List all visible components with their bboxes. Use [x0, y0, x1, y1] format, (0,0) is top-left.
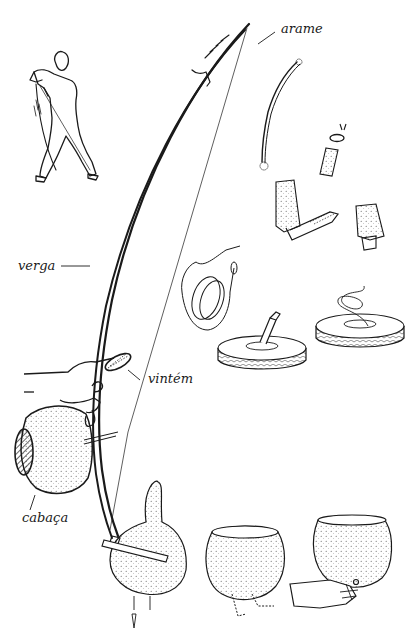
tire-with-knife	[218, 312, 306, 369]
wire-coil	[182, 246, 240, 330]
bow-end-cap-fitting	[276, 180, 384, 250]
verga-bow	[93, 24, 249, 544]
arame-wire	[110, 28, 247, 530]
label-arame: arame	[281, 22, 323, 35]
loose-wire	[260, 59, 302, 170]
berimbau-diagram: arame verga vintém cabaça	[0, 0, 420, 643]
cut-gourd	[206, 526, 284, 616]
label-cabaca: cabaça	[22, 511, 68, 524]
label-verga: verga	[18, 259, 55, 272]
player-figure	[30, 52, 98, 182]
bow-end-cap	[320, 124, 346, 176]
illustration-canvas	[0, 0, 420, 643]
label-vintem: vintém	[148, 372, 193, 385]
tire-with-coil	[316, 286, 404, 347]
gourd-held	[290, 515, 392, 608]
